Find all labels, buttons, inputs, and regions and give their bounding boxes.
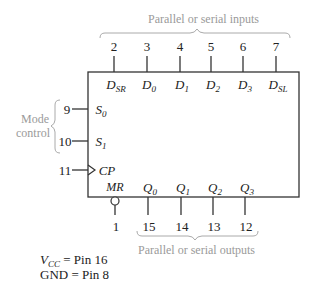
pin-number: 13	[208, 220, 221, 233]
outputs-label: Parallel or serial outputs	[138, 244, 255, 256]
inputs-label: Parallel or serial inputs	[148, 13, 259, 25]
clock-triangle-icon	[88, 165, 95, 175]
signal-q2: Q2	[208, 181, 222, 197]
signal-s0: S0	[96, 103, 107, 119]
signal-mr: MR	[106, 181, 123, 193]
pin-number: 7	[273, 40, 280, 53]
top-pin-leads	[114, 56, 276, 72]
signal-dsl: DSL	[269, 78, 288, 94]
bottom-pin-leads	[115, 197, 245, 215]
pin-number: 11	[59, 164, 72, 177]
pin-number: 2	[111, 40, 118, 53]
inversion-bubble-icon	[111, 197, 119, 205]
pin-number: 1	[113, 220, 120, 233]
pin-number: 3	[144, 40, 151, 53]
pin-number: 15	[143, 220, 156, 233]
mode-label-line2: control	[16, 127, 50, 139]
gnd-note: GND = Pin 8	[40, 268, 109, 281]
signal-d0: D0	[142, 78, 156, 94]
signal-cp: CP	[99, 164, 116, 177]
top-brace	[100, 29, 290, 38]
signal-d2: D2	[206, 78, 220, 94]
pin-number: 4	[177, 40, 184, 53]
signal-q1: Q1	[176, 181, 190, 197]
signal-d1: D1	[175, 78, 189, 94]
signal-q0: Q0	[143, 181, 157, 197]
pin-number: 10	[59, 135, 72, 148]
pin-number: 6	[240, 40, 247, 53]
left-pin-leads	[72, 109, 88, 170]
signal-s1: S1	[96, 135, 107, 151]
pin-number: 14	[176, 220, 189, 233]
mode-label-line1: Mode	[21, 113, 49, 125]
pin-number: 5	[208, 40, 215, 53]
signal-d3: D3	[238, 78, 252, 94]
signal-dsr: DSR	[106, 78, 125, 94]
pin-number: 12	[240, 220, 253, 233]
pin-number: 9	[64, 103, 71, 116]
signal-q3: Q3	[240, 181, 254, 197]
